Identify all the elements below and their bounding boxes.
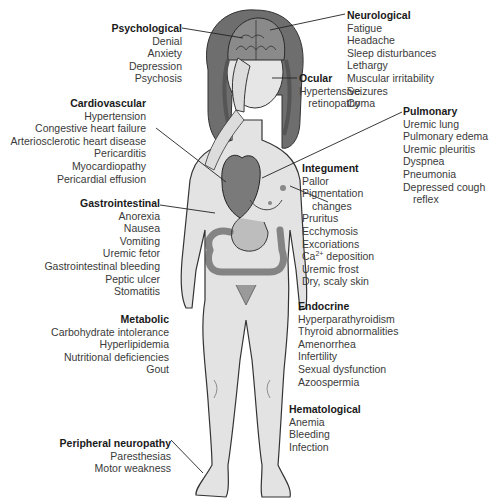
group-ocular: Ocular Hypertensive retinopathy <box>299 72 360 110</box>
group-title: Psychological <box>111 22 182 35</box>
group-peripheral-neuropathy: Peripheral neuropathy Paresthesias Motor… <box>60 437 171 475</box>
group-cardiovascular: Cardiovascular Hypertension Congestive h… <box>11 97 146 185</box>
group-gastrointestinal: Gastrointestinal Anorexia Nausea Vomitin… <box>44 197 160 298</box>
group-pulmonary: Pulmonary Uremic lung Pulmonary edema Ur… <box>403 105 488 206</box>
group-psychological: Psychological Denial Anxiety Depression … <box>111 22 182 85</box>
stomach <box>231 218 268 251</box>
group-neurological: Neurological Fatigue Headache Sleep dist… <box>347 9 436 110</box>
group-hematological: Hematological Anemia Bleeding Infection <box>289 403 361 453</box>
group-integument: Integument Pallor Pigmentation changes P… <box>302 162 374 288</box>
group-endocrine: Endocrine Hyperparathyroidism Thyroid ab… <box>298 300 398 388</box>
group-metabolic: Metabolic Carbohydrate intolerance Hyper… <box>51 313 169 376</box>
